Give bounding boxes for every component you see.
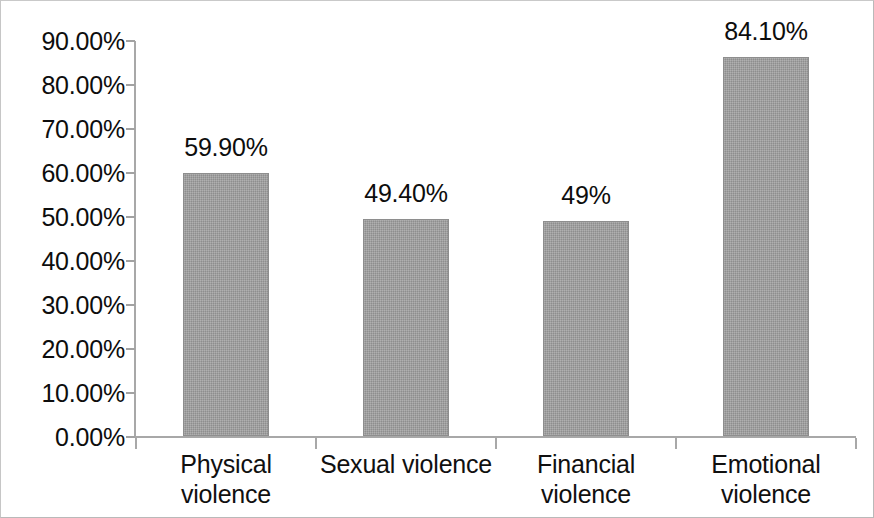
y-axis-tick-mark (126, 40, 135, 42)
y-axis-tick-label: 20.00% (41, 337, 125, 362)
bar (363, 219, 449, 436)
y-axis-tick-label: 30.00% (41, 293, 125, 318)
x-axis-category-label: Financialviolence (496, 450, 676, 509)
y-axis-tick-mark (126, 216, 135, 218)
y-axis-tick-label: 0.00% (55, 425, 125, 450)
category-label-line: violence (676, 480, 856, 510)
x-axis-separator-tick (855, 438, 857, 449)
bar-value-label: 49% (561, 183, 610, 208)
y-axis-tick-label: 70.00% (41, 117, 125, 142)
x-axis-separator-tick (315, 438, 317, 449)
y-axis-tick-label: 50.00% (41, 205, 125, 230)
x-axis-separator-tick (495, 438, 497, 449)
bar (183, 173, 269, 436)
bar-group: 59.90% (136, 41, 316, 436)
plot-area: 59.90%49.40%49%84.10% (136, 41, 856, 436)
x-axis-category-label: Sexual violence (316, 450, 496, 480)
y-axis-tick-label: 80.00% (41, 73, 125, 98)
bar-group: 49.40% (316, 41, 496, 436)
bar-value-label: 59.90% (184, 135, 268, 160)
x-axis-separator-tick (675, 438, 677, 449)
category-label-line: violence (496, 480, 676, 510)
y-axis-tick-mark (126, 436, 135, 438)
category-label-line: Sexual violence (316, 450, 496, 480)
y-axis-tick-label: 60.00% (41, 161, 125, 186)
y-axis-tick-mark (126, 84, 135, 86)
bar (723, 57, 809, 436)
bar-value-label: 49.40% (364, 181, 448, 206)
x-axis-category-labels: PhysicalviolenceSexual violenceFinancial… (136, 450, 856, 516)
x-axis-separator-tick (135, 438, 137, 449)
category-label-line: Physical (136, 450, 316, 480)
y-axis-labels: 0.00%10.00%20.00%30.00%40.00%50.00%60.00… (9, 1, 125, 518)
y-axis-tick-label: 10.00% (41, 381, 125, 406)
y-axis-tick-label: 40.00% (41, 249, 125, 274)
bar-group: 84.10% (676, 41, 856, 436)
y-axis-tick-mark (126, 348, 135, 350)
bar (543, 221, 629, 436)
x-axis-category-label: Emotionalviolence (676, 450, 856, 509)
y-axis-tick-mark (126, 128, 135, 130)
y-axis-tick-mark (126, 304, 135, 306)
bar-chart-figure: 0.00%10.00%20.00%30.00%40.00%50.00%60.00… (0, 0, 874, 518)
y-axis-tick-mark (126, 172, 135, 174)
bar-value-label: 84.10% (724, 19, 808, 44)
y-axis-tick-mark (126, 260, 135, 262)
y-axis-tick-label: 90.00% (41, 29, 125, 54)
y-axis-tick-mark (126, 392, 135, 394)
category-label-line: Emotional (676, 450, 856, 480)
bar-group: 49% (496, 41, 676, 436)
category-label-line: violence (136, 480, 316, 510)
x-axis-category-label: Physicalviolence (136, 450, 316, 509)
category-label-line: Financial (496, 450, 676, 480)
